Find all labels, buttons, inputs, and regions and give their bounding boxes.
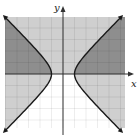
x-axis-arrow-icon — [128, 72, 134, 77]
hyperbola-graph — [0, 0, 140, 139]
x-axis-label: x — [131, 78, 137, 89]
y-axis-arrow-icon — [61, 6, 66, 12]
y-axis-label: y — [54, 2, 60, 13]
